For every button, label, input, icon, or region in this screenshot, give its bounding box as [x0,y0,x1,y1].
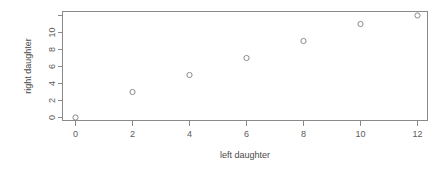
data-point [73,115,78,120]
y-axis-ticks [58,16,63,118]
scatter-plot-figure: 0 2 4 6 8 10 0 2 4 6 8 10 12 lef [0,0,443,169]
data-point [130,89,135,94]
y-tick-label-0: 0 [47,115,57,120]
y-tick-label-10: 10 [47,27,57,37]
y-tick-label-2: 2 [47,98,57,103]
x-tick-label-12: 12 [412,129,422,139]
x-tick-label-6: 6 [244,129,249,139]
x-tick-label-4: 4 [187,129,192,139]
data-point [301,38,306,43]
data-point [244,55,249,60]
x-axis-ticks [76,121,418,126]
plot-canvas: 0 2 4 6 8 10 0 2 4 6 8 10 12 lef [0,0,443,169]
x-tick-label-8: 8 [301,129,306,139]
y-tick-label-4: 4 [47,81,57,86]
y-axis-title: right daughter [23,38,33,94]
y-axis-tick-labels: 0 2 4 6 8 10 [47,27,57,120]
y-tick-label-6: 6 [47,64,57,69]
data-point [358,21,363,26]
x-tick-label-0: 0 [73,129,78,139]
data-point-group [73,13,420,120]
x-axis-title: left daughter [220,150,270,160]
x-tick-label-2: 2 [130,129,135,139]
x-axis-tick-labels: 0 2 4 6 8 10 12 [73,129,423,139]
data-point [415,13,420,18]
data-point [187,72,192,77]
x-tick-label-10: 10 [355,129,365,139]
plot-frame [63,12,428,121]
y-tick-label-8: 8 [47,47,57,52]
